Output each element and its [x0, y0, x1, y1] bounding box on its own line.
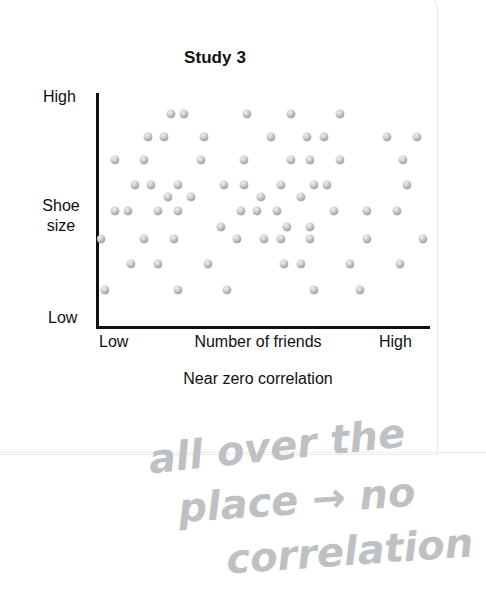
data-point	[220, 181, 228, 189]
data-point	[140, 235, 148, 243]
data-point	[101, 286, 109, 294]
data-point	[147, 181, 155, 189]
y-axis-tick-high: High	[43, 88, 76, 106]
data-point	[111, 207, 119, 215]
data-point	[399, 156, 407, 164]
x-axis-title: Number of friends	[148, 333, 368, 351]
data-point	[243, 110, 251, 118]
data-point	[124, 207, 132, 215]
data-point	[240, 156, 248, 164]
data-point	[320, 133, 328, 141]
data-point	[287, 156, 295, 164]
x-axis-tick-high: High	[379, 333, 412, 351]
data-point	[419, 235, 427, 243]
data-point	[303, 133, 311, 141]
data-point	[240, 181, 248, 189]
data-point	[111, 156, 119, 164]
x-axis-tick-low: Low	[99, 333, 128, 351]
data-point	[170, 235, 178, 243]
data-point	[253, 207, 261, 215]
data-point	[217, 223, 225, 231]
scatter-figure: Study 3 High Low Shoe size Low High Numb…	[0, 0, 486, 420]
data-point	[237, 207, 245, 215]
data-point	[200, 133, 208, 141]
data-point	[154, 207, 162, 215]
data-point	[363, 207, 371, 215]
chart-caption: Near zero correlation	[148, 368, 368, 389]
annotation-line-3: correlation	[225, 519, 475, 582]
data-point	[204, 260, 212, 268]
data-point	[283, 223, 291, 231]
data-point	[306, 235, 314, 243]
data-point	[127, 260, 135, 268]
data-point	[144, 133, 152, 141]
data-point	[356, 286, 364, 294]
data-point	[180, 110, 188, 118]
data-point	[310, 181, 318, 189]
y-axis-title: Shoe size	[30, 196, 92, 236]
data-point	[233, 235, 241, 243]
data-point	[97, 235, 105, 243]
data-point	[363, 235, 371, 243]
data-point	[287, 110, 295, 118]
data-point	[197, 156, 205, 164]
data-point	[393, 207, 401, 215]
plot-area	[98, 95, 430, 327]
data-point	[396, 260, 404, 268]
page-fold-line	[0, 452, 486, 453]
data-point	[330, 207, 338, 215]
data-point	[323, 181, 331, 189]
data-point	[297, 260, 305, 268]
data-point	[174, 181, 182, 189]
data-point	[336, 110, 344, 118]
data-point	[131, 181, 139, 189]
chart-title: Study 3	[0, 48, 430, 68]
data-point	[223, 286, 231, 294]
data-point	[140, 156, 148, 164]
y-axis-tick-low: Low	[48, 309, 77, 327]
data-point	[306, 156, 314, 164]
data-point	[336, 156, 344, 164]
data-point	[257, 193, 265, 201]
data-point	[167, 110, 175, 118]
data-point	[413, 133, 421, 141]
data-point	[403, 181, 411, 189]
data-point	[273, 207, 281, 215]
data-point	[346, 260, 354, 268]
data-point	[306, 223, 314, 231]
data-point	[160, 133, 168, 141]
data-point	[310, 286, 318, 294]
annotation-line-2: place → no	[177, 469, 417, 531]
data-point	[280, 260, 288, 268]
data-point	[174, 207, 182, 215]
data-point	[277, 181, 285, 189]
data-point	[174, 286, 182, 294]
data-point	[164, 193, 172, 201]
data-point	[154, 260, 162, 268]
data-point	[297, 193, 305, 201]
data-point	[277, 235, 285, 243]
data-point	[260, 235, 268, 243]
data-point	[383, 133, 391, 141]
data-point	[187, 193, 195, 201]
data-point	[267, 133, 275, 141]
